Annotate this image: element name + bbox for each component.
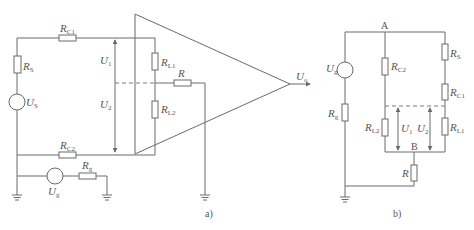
label-rg-b: Rg <box>327 107 339 121</box>
voltage-source-ug <box>47 168 63 184</box>
resistor-rg-b <box>342 104 348 121</box>
amplifier-triangle <box>135 14 290 154</box>
node-b: B <box>411 141 418 152</box>
label-rc1-b: RC1 <box>449 86 465 100</box>
resistor-rl2-b <box>382 119 388 136</box>
label-rc1: RC1 <box>59 22 75 36</box>
caption-a: a) <box>205 208 213 220</box>
label-rs: RS <box>22 60 34 74</box>
circuit-diagrams: RC1 RS US RC2 U1 U2 RL1 RL2 R Uo Ug Rg a… <box>0 0 474 230</box>
resistor-rs <box>14 56 21 73</box>
label-rl2-b: RL2 <box>364 121 380 135</box>
voltage-source-us <box>9 94 25 110</box>
caption-b: b) <box>393 208 401 220</box>
node-a: A <box>381 20 389 31</box>
resistor-rl1-b <box>442 118 448 135</box>
voltage-source-ug-b <box>337 62 353 78</box>
label-uo: Uo <box>296 70 308 84</box>
label-us: US <box>26 96 38 110</box>
resistor-rc1-b <box>442 84 448 100</box>
label-rc2: RC2 <box>59 139 75 153</box>
resistor-rg <box>79 173 96 179</box>
label-rl1-b: RL1 <box>449 121 465 135</box>
label-u1-b: U1 <box>401 122 413 136</box>
label-ug-b: Ug <box>326 62 338 76</box>
label-rc2-b: RC2 <box>390 60 406 74</box>
label-u2: U2 <box>100 98 112 112</box>
label-rl2: RL2 <box>160 103 176 117</box>
diagram-a: RC1 RS US RC2 U1 U2 RL1 RL2 R Uo Ug Rg a… <box>9 14 310 220</box>
label-r-b: R <box>401 167 409 179</box>
label-rs-b: RS <box>449 47 461 61</box>
resistor-rs-b <box>442 44 448 60</box>
resistor-rl1 <box>152 53 158 70</box>
resistor-r <box>174 80 191 86</box>
label-r: R <box>177 67 185 79</box>
label-ug: Ug <box>48 185 60 199</box>
label-rl1: RL1 <box>160 56 176 70</box>
label-u2-b: U2 <box>417 122 429 136</box>
circuit-figure: RC1 RS US RC2 U1 U2 RL1 RL2 R Uo Ug Rg a… <box>0 0 474 230</box>
resistor-r-b <box>411 165 417 181</box>
label-u1: U1 <box>100 54 112 68</box>
resistor-rc2-b <box>382 58 388 75</box>
diagram-b: A B Ug Rg RC2 RL2 U1 U2 RS RC1 RL1 R b) <box>326 20 465 220</box>
label-rg: Rg <box>81 159 93 173</box>
resistor-rl2 <box>152 101 158 118</box>
